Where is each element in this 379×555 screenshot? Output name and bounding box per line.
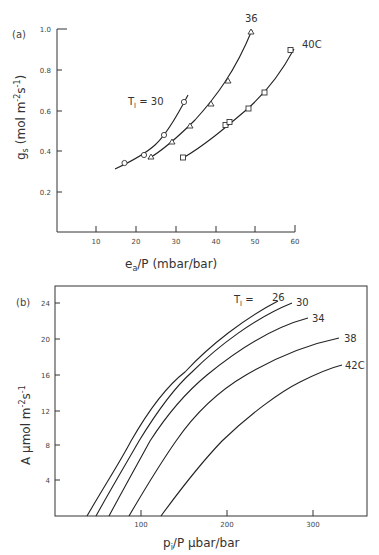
svg-text:0.4: 0.4 <box>40 148 52 156</box>
svg-text:100: 100 <box>134 521 147 529</box>
curve-t36 <box>148 30 252 159</box>
label-t26: 26 <box>272 292 285 303</box>
markers-t36 <box>148 29 254 159</box>
panel-b-y-title: A µmol m-2s-1 <box>18 385 33 465</box>
svg-text:1.0: 1.0 <box>40 26 51 34</box>
svg-text:0.2: 0.2 <box>40 189 51 197</box>
svg-text:8: 8 <box>46 442 50 450</box>
svg-text:20: 20 <box>41 336 50 344</box>
label-t36: 36 <box>245 13 258 24</box>
panel-b-y-ticks: 24 20 16 12 8 4 <box>41 300 60 485</box>
svg-text:20: 20 <box>132 238 141 246</box>
panel-a-x-ticks: 10 20 30 40 50 60 <box>92 226 300 246</box>
panel-b: (b) 24 20 16 12 8 4 100 200 300 <box>16 286 367 552</box>
svg-text:16: 16 <box>41 372 50 380</box>
panel-b-x-title: pi/P µbar/bar <box>163 536 240 552</box>
panel-b-label: (b) <box>16 297 30 308</box>
curve-t26 <box>87 301 278 516</box>
label-t30: Tl = 30 <box>127 96 164 110</box>
svg-text:10: 10 <box>92 238 101 246</box>
curve-t34 <box>109 318 308 516</box>
svg-text:12: 12 <box>41 408 50 416</box>
panel-a: (a) 1.0 0.8 0.6 0.4 0.2 10 20 30 40 <box>12 13 322 273</box>
panel-a-label: (a) <box>12 29 26 40</box>
curve-t30b <box>96 303 292 516</box>
curve-t38 <box>129 338 339 516</box>
label-t38: 38 <box>344 333 357 344</box>
panel-a-y-title: gs(mol m-2s-1) <box>13 75 30 160</box>
svg-text:30: 30 <box>172 238 181 246</box>
svg-text:0.6: 0.6 <box>40 108 52 116</box>
panel-a-axes <box>57 29 295 232</box>
svg-text:4: 4 <box>46 477 51 485</box>
label-t30b: 30 <box>296 297 309 308</box>
svg-text:0.8: 0.8 <box>40 67 51 75</box>
svg-text:40: 40 <box>212 238 221 246</box>
figure: (a) 1.0 0.8 0.6 0.4 0.2 10 20 30 40 <box>0 0 379 555</box>
svg-text:300: 300 <box>306 521 319 529</box>
label-tl: Tl = <box>233 294 254 308</box>
curve-t40c <box>183 49 294 158</box>
panel-a-y-ticks: 1.0 0.8 0.6 0.4 0.2 <box>40 26 67 197</box>
label-t34: 34 <box>312 313 325 324</box>
label-t40c: 40C <box>302 39 322 50</box>
svg-text:50: 50 <box>251 238 260 246</box>
markers-t40c <box>181 48 294 161</box>
curve-t42c <box>161 365 342 516</box>
panel-b-x-ticks: 100 200 300 <box>134 510 319 529</box>
svg-text:24: 24 <box>41 300 50 308</box>
svg-text:200: 200 <box>220 521 233 529</box>
svg-text:60: 60 <box>291 238 300 246</box>
label-t42c: 42C <box>345 360 365 371</box>
panel-a-x-title: ea/P (mbar/bar) <box>125 257 217 273</box>
